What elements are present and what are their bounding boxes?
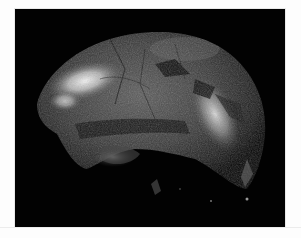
page-edge [0, 227, 301, 228]
skull-illustration [15, 9, 285, 227]
page [0, 0, 301, 238]
skull-photo [15, 9, 285, 227]
